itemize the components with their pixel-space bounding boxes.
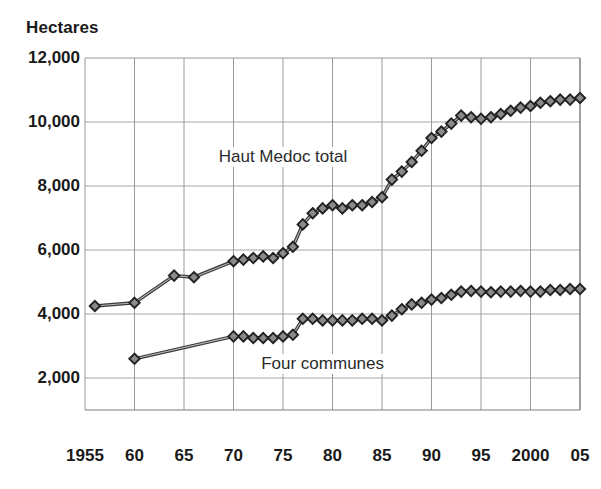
series-label-haut-medoc-total: Haut Medoc total (216, 147, 351, 167)
data-point-marker (189, 272, 199, 282)
chart-page: Hectares 12,00010,0008,0006,0004,0002,00… (0, 0, 601, 489)
plot-area (0, 0, 601, 489)
x-axis-tick-label: 60 (125, 446, 144, 466)
series-line (95, 98, 580, 306)
data-point-marker (278, 331, 288, 341)
data-point-marker (456, 286, 466, 296)
data-point-marker (416, 298, 426, 308)
series-line (135, 289, 581, 359)
data-point-marker (90, 301, 100, 311)
data-point-marker (535, 98, 545, 108)
data-point-marker (308, 314, 318, 324)
data-point-marker (575, 93, 585, 103)
data-point-marker (367, 314, 377, 324)
x-axis-tick-label: 70 (224, 446, 243, 466)
data-point-marker (327, 200, 337, 210)
data-point-marker (506, 106, 516, 116)
data-point-marker (575, 284, 585, 294)
data-point-marker (466, 112, 476, 122)
data-point-marker (258, 251, 268, 261)
data-point-marker (515, 286, 525, 296)
data-point-marker (486, 287, 496, 297)
data-point-marker (228, 256, 238, 266)
data-point-marker (426, 294, 436, 304)
x-axis-tick-label: 65 (175, 446, 194, 466)
data-point-marker (129, 354, 139, 364)
data-point-marker (238, 331, 248, 341)
x-axis-tick-label: 1955 (66, 446, 104, 466)
x-axis-tick-label: 90 (422, 446, 441, 466)
data-point-marker (535, 286, 545, 296)
data-point-marker (347, 315, 357, 325)
x-axis-tick-label: 85 (373, 446, 392, 466)
x-axis-tick-label: 75 (274, 446, 293, 466)
data-point-marker (515, 102, 525, 112)
data-point-marker (337, 203, 347, 213)
series-four-communes (129, 284, 585, 364)
series-label-four-communes: Four communes (258, 354, 387, 374)
data-point-marker (545, 96, 555, 106)
data-series-layer (90, 93, 586, 364)
x-axis-tick-label: 2000 (512, 446, 550, 466)
data-point-marker (496, 109, 506, 119)
data-point-marker (357, 200, 367, 210)
data-point-marker (436, 293, 446, 303)
x-axis-tick-label: 80 (323, 446, 342, 466)
series-line-highlight (135, 289, 581, 359)
data-point-marker (486, 112, 496, 122)
data-point-marker (466, 286, 476, 296)
data-point-marker (555, 285, 565, 295)
data-point-marker (446, 290, 456, 300)
x-axis-tick-label: 05 (571, 446, 590, 466)
series-line-highlight (95, 98, 580, 306)
series-haut-medoc-total (90, 93, 586, 311)
data-point-marker (476, 286, 486, 296)
data-point-marker (238, 254, 248, 264)
x-axis-tick-label: 95 (472, 446, 491, 466)
data-point-marker (268, 333, 278, 343)
data-point-marker (525, 101, 535, 111)
data-point-marker (565, 94, 575, 104)
data-point-marker (506, 286, 516, 296)
data-point-marker (248, 253, 258, 263)
